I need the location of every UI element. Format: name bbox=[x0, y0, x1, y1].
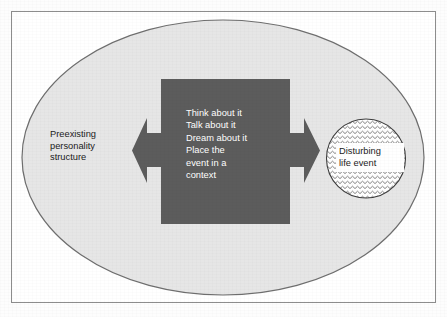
figure-canvas: muis d Preexisting personality structure bbox=[0, 0, 447, 317]
disturbing-life-event-label: Disturbing life event bbox=[336, 143, 404, 172]
preexisting-personality-structure-label: Preexisting personality structure bbox=[50, 129, 136, 164]
processing-activities-label: Think about it Talk about it Dream about… bbox=[186, 107, 286, 181]
